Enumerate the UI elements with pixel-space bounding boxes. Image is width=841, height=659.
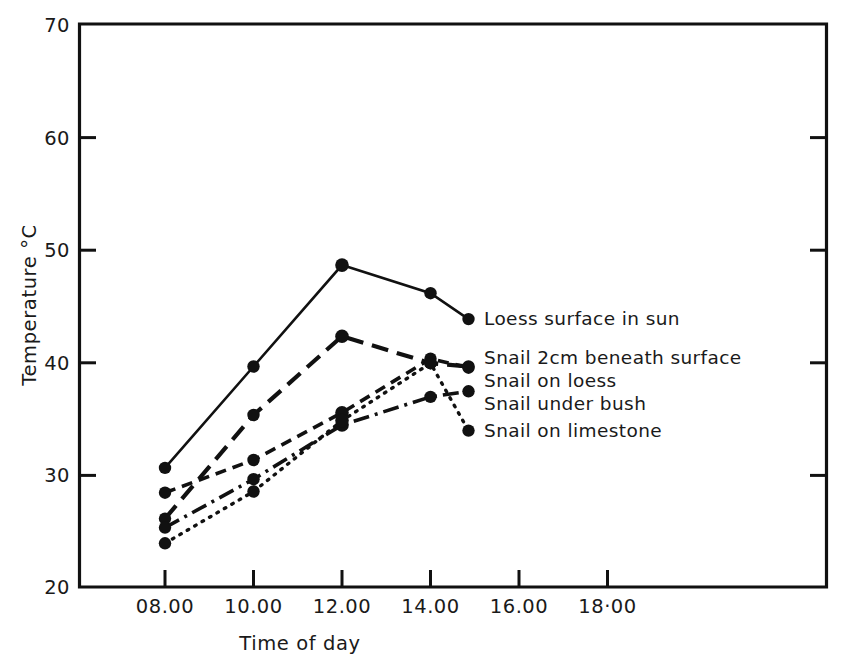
x-tick-label-0800: 08.00	[136, 595, 194, 618]
y-axis-ticks	[80, 138, 97, 476]
data-point	[159, 521, 171, 533]
data-point	[462, 424, 474, 436]
series-snail-on-loess	[159, 353, 475, 499]
chart-legend: Loess surface in sun Snail 2cm beneath s…	[484, 308, 742, 441]
axis-box	[80, 24, 827, 587]
data-point	[424, 287, 436, 299]
y-tick-label-70: 70	[44, 14, 70, 37]
x-axis-tick-labels: 08.00 10.00 12.00 14.00 16.00 18·00	[136, 595, 637, 618]
x-tick-label-1400: 14.00	[401, 595, 459, 618]
data-point	[247, 454, 259, 466]
data-point	[335, 329, 349, 343]
series-line-snail-on-loess	[165, 359, 469, 493]
series-line-snail-on-limestone	[165, 363, 469, 543]
y-tick-label-30: 30	[44, 464, 70, 487]
data-point	[462, 313, 474, 325]
data-point	[247, 485, 259, 497]
x-tick-label-1200: 12.00	[313, 595, 371, 618]
data-point	[247, 360, 259, 372]
data-point	[335, 414, 349, 428]
x-tick-label-1600: 16.00	[490, 595, 548, 618]
legend-label-loess-surface-in-sun: Loess surface in sun	[484, 308, 680, 329]
legend-label-snail-under-bush: Snail under bush	[484, 393, 646, 414]
y-axis-title: Temperature °C	[18, 224, 41, 387]
y-axis-ticks-right	[810, 138, 827, 476]
legend-label-snail-on-limestone: Snail on limestone	[484, 420, 662, 441]
x-tick-label-1000: 10.00	[224, 595, 282, 618]
y-axis-tick-labels: 20 30 40 50 60 70	[44, 14, 70, 599]
x-axis-title: Time of day	[238, 632, 360, 655]
data-point	[159, 462, 171, 474]
y-tick-label-40: 40	[44, 352, 70, 375]
data-point	[462, 362, 474, 374]
legend-label-snail-on-loess: Snail on loess	[484, 370, 617, 391]
data-point	[247, 409, 259, 421]
data-point	[159, 487, 171, 499]
data-point	[424, 391, 436, 403]
data-point	[159, 537, 171, 549]
series-snail-under-bush	[159, 385, 475, 534]
data-point	[462, 385, 474, 397]
data-point	[424, 357, 436, 369]
x-tick-label-1800: 18·00	[578, 595, 636, 618]
y-tick-label-20: 20	[44, 576, 70, 599]
data-point	[247, 473, 259, 485]
chart-canvas: 20 30 40 50 60 70 Temperature °C 08.00 1…	[0, 0, 841, 659]
y-tick-label-60: 60	[44, 127, 70, 150]
x-axis-ticks	[165, 570, 608, 587]
chart-figure: 20 30 40 50 60 70 Temperature °C 08.00 1…	[0, 0, 841, 659]
series-line-snail-under-bush	[165, 391, 469, 527]
y-tick-label-50: 50	[44, 239, 70, 262]
plot-frame	[80, 24, 827, 587]
series-snail-on-limestone	[159, 357, 475, 550]
series-line-loess-surface-in-sun	[165, 265, 469, 468]
legend-label-snail-2cm-beneath-surface: Snail 2cm beneath surface	[484, 347, 742, 368]
data-point	[335, 258, 349, 272]
